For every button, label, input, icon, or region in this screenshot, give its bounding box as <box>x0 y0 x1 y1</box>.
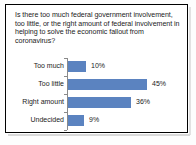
bar-row: Undecided 9% <box>6 112 189 130</box>
bar-too-much <box>68 61 86 72</box>
bar-undecided <box>68 115 84 126</box>
bar-too-little <box>68 79 147 90</box>
bar-row: Too much 10% <box>6 58 189 76</box>
bar-row: Too little 45% <box>6 76 189 94</box>
value-label-too-much: 10% <box>91 62 105 70</box>
value-label-too-little: 45% <box>152 80 166 88</box>
category-label-too-little: Too little <box>8 80 64 88</box>
plot-area: Too much 10% Too little 45% Right amount… <box>6 55 189 134</box>
chart-title: Is there too much federal government inv… <box>15 11 181 45</box>
frame-shadow-right <box>189 7 191 135</box>
bar-row: Right amount 36% <box>6 94 189 112</box>
chart-screenshot: Is there too much federal government inv… <box>0 0 196 145</box>
category-label-undecided: Undecided <box>8 116 64 124</box>
chart-frame: Is there too much federal government inv… <box>5 4 188 133</box>
value-label-undecided: 9% <box>89 116 99 124</box>
value-label-right-amount: 36% <box>136 98 150 106</box>
frame-shadow-bottom <box>8 134 190 136</box>
category-label-right-amount: Right amount <box>8 98 64 106</box>
bar-right-amount <box>68 97 131 108</box>
category-label-too-much: Too much <box>8 62 64 70</box>
axis-tick <box>64 130 67 131</box>
